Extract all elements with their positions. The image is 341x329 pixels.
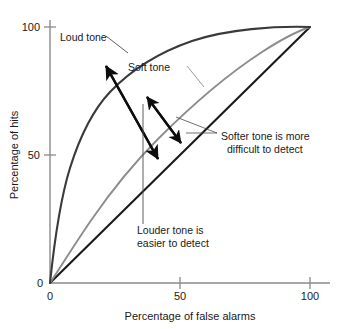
soft-tone-label: Soft tone — [128, 61, 170, 73]
softer-note-line2: difficult to detect — [227, 143, 303, 155]
y-axis-title: Percentage of hits — [8, 110, 20, 199]
x-tick-label-50: 50 — [174, 290, 186, 302]
roc-curve-figure: 100 50 0 0 50 100 Percentage of false al… — [0, 0, 341, 329]
louder-tone-annotation: Louder tone is easier to detect — [137, 224, 209, 249]
x-axis-title: Percentage of false alarms — [125, 310, 256, 322]
x-tick-label-100: 100 — [301, 290, 319, 302]
y-tick-label-50: 50 — [28, 149, 40, 161]
louder-tone-gap-arrow — [106, 66, 158, 159]
softer-tone-gap-arrow — [147, 97, 181, 143]
y-tick-label-0: 0 — [37, 277, 43, 289]
x-tick-label-0: 0 — [47, 290, 53, 302]
louder-note-line1: Louder tone is — [137, 224, 204, 236]
loud-tone-leader-line — [106, 36, 128, 53]
soft-tone-leader-line — [187, 66, 204, 87]
chart-canvas: 100 50 0 0 50 100 Percentage of false al… — [0, 0, 341, 329]
softer-tone-annotation: Softer tone is more difficult to detect — [221, 130, 310, 155]
softer-note-line1: Softer tone is more — [221, 130, 310, 142]
loud-tone-label: Loud tone — [60, 31, 107, 43]
y-tick-label-100: 100 — [22, 21, 40, 33]
louder-note-line2: easier to detect — [137, 237, 209, 249]
